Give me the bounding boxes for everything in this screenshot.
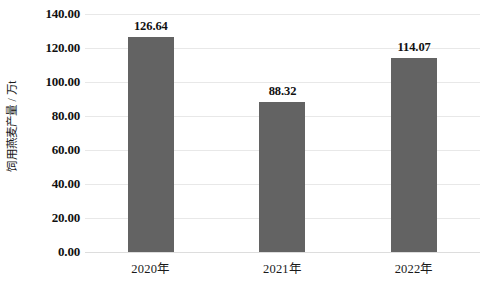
- x-axis-tick-label: 2020年: [131, 258, 170, 277]
- bar-value-label: 114.07: [398, 40, 431, 55]
- bar: [259, 102, 305, 252]
- bar-value-label: 126.64: [134, 19, 168, 34]
- y-axis-tick-label: 20.00: [52, 210, 80, 226]
- y-axis-tick-label: 140.00: [45, 6, 80, 22]
- plot-area: 126.6488.32114.07: [85, 14, 480, 252]
- y-axis-title-label: 饲用燕麦产量 / 万t: [3, 80, 19, 171]
- y-axis-tick-label: 100.00: [45, 74, 80, 90]
- y-axis-tick-label: 60.00: [52, 142, 80, 158]
- bar: [391, 58, 437, 252]
- gridline: [85, 252, 480, 253]
- x-axis-tick-label: 2022年: [395, 258, 434, 277]
- y-axis-tick-label: 40.00: [52, 176, 80, 192]
- y-axis-tick-label: 0.00: [58, 244, 80, 260]
- bar-group: 88.32: [217, 14, 349, 252]
- x-axis-tick-labels: 2020年2021年2022年: [85, 258, 480, 280]
- bar-value-label: 88.32: [269, 84, 297, 99]
- bar-chart: 饲用燕麦产量 / 万t 140.00120.00100.0080.0060.00…: [0, 0, 500, 285]
- bars-layer: 126.6488.32114.07: [85, 14, 480, 252]
- bar-group: 126.64: [85, 14, 217, 252]
- bar-group: 114.07: [348, 14, 480, 252]
- y-axis-tick-labels: 140.00120.00100.0080.0060.0040.0020.000.…: [18, 0, 84, 285]
- y-axis-tick-label: 80.00: [52, 108, 80, 124]
- x-axis-tick-label: 2021年: [263, 258, 302, 277]
- y-axis-tick-label: 120.00: [45, 40, 80, 56]
- bar: [128, 37, 174, 252]
